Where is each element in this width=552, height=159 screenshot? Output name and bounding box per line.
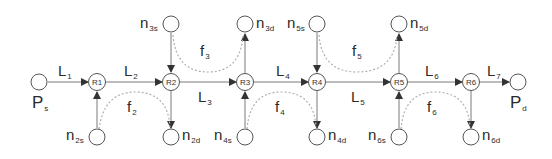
node-n6s: [391, 129, 407, 145]
router-R6: R6: [463, 74, 480, 91]
label-n5s: n5s: [287, 15, 305, 33]
router-label: R5: [394, 78, 405, 87]
node-n3d: [237, 16, 253, 32]
node-n2d: [163, 129, 179, 145]
label-L7: L7: [487, 63, 501, 81]
node-n5d: [391, 16, 407, 32]
router-label: R6: [466, 78, 477, 87]
node-n4d: [309, 129, 325, 145]
network-diagram: R1 R2 R3 R4 R5 R6 Ps P: [0, 0, 552, 159]
router-R4: R4: [309, 74, 326, 91]
label-f4: f4: [275, 99, 285, 117]
label-n2s: n2s: [66, 127, 84, 145]
label-n6s: n6s: [368, 127, 386, 145]
endpoint-node-ps: [31, 74, 47, 90]
label-n4s: n4s: [214, 127, 232, 145]
router-R1: R1: [89, 74, 106, 91]
node-n5s: [309, 16, 325, 32]
label-L4: L4: [276, 63, 290, 81]
router-R3: R3: [237, 74, 254, 91]
label-f2: f2: [127, 99, 137, 117]
label-f6: f6: [427, 99, 437, 117]
label-n2d: n2d: [182, 127, 200, 145]
router-label: R2: [166, 78, 177, 87]
label-L3: L3: [198, 89, 212, 107]
label-n4d: n4d: [328, 127, 346, 145]
label-n6d: n6d: [482, 127, 500, 145]
label-pd: Pd: [510, 94, 527, 113]
router-label: R1: [92, 78, 103, 87]
endpoint-node-pd: [510, 74, 526, 90]
label-ps: Ps: [32, 94, 48, 113]
label-f5: f5: [352, 43, 362, 61]
label-L5: L5: [351, 89, 365, 107]
label-f3: f3: [200, 43, 210, 61]
label-n3d: n3d: [256, 15, 274, 33]
node-n6d: [463, 129, 479, 145]
node-n4s: [237, 129, 253, 145]
node-n3s: [163, 16, 179, 32]
label-L2: L2: [124, 63, 138, 81]
label-L6: L6: [425, 63, 439, 81]
label-n5d: n5d: [410, 15, 428, 33]
label-n3s: n3s: [140, 15, 158, 33]
node-n2s: [89, 129, 105, 145]
router-label: R4: [312, 78, 323, 87]
router-R5: R5: [391, 74, 408, 91]
router-label: R3: [240, 78, 251, 87]
label-L1: L1: [58, 63, 72, 81]
router-R2: R2: [163, 74, 180, 91]
